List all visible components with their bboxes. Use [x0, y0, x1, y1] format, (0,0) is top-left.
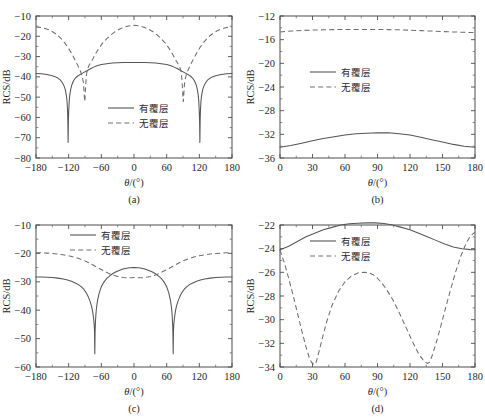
y-axis-title: RCS/dB — [1, 278, 12, 313]
legend-label-dashed: 无覆层 — [139, 118, 169, 129]
x-tick-label: 120 — [402, 162, 418, 173]
y-tick-label: −32 — [259, 129, 275, 140]
x-tick-label: 150 — [435, 371, 451, 382]
legend-label-solid: 有覆层 — [341, 236, 371, 247]
x-tick-label: −60 — [93, 371, 109, 382]
panel-a-plot: −180−120−60060120180−80−70−60−50−40−30−2… — [0, 0, 242, 207]
y-tick-label: −16 — [259, 34, 275, 45]
panel-caption: (a) — [128, 194, 140, 206]
series-curve-dashed — [280, 29, 475, 32]
panel-caption: (d) — [371, 403, 384, 415]
y-tick-label: −32 — [259, 338, 275, 349]
y-tick-label: −50 — [15, 92, 31, 103]
y-tick-label: −70 — [15, 132, 31, 143]
x-tick-label: 120 — [191, 371, 207, 382]
x-tick-label: 90 — [372, 162, 383, 173]
x-axis-title: θ/(°) — [368, 386, 388, 398]
y-axis-title: RCS/dB — [245, 69, 256, 104]
x-tick-label: 150 — [435, 162, 451, 173]
legend-label-solid: 有覆层 — [139, 103, 169, 114]
panel-c-plot: −180−120−60060120180−60−50−40−30−20−10有覆… — [0, 207, 242, 417]
x-axis-title: θ/(°) — [368, 177, 388, 189]
y-axis-title: RCS/dB — [245, 278, 256, 313]
x-tick-label: 60 — [161, 162, 172, 173]
y-tick-label: −24 — [259, 243, 276, 254]
x-tick-label: 180 — [224, 162, 240, 173]
y-tick-label: −50 — [15, 333, 31, 344]
y-tick-label: −34 — [259, 362, 276, 373]
y-tick-label: −60 — [15, 112, 31, 123]
series-curve-solid — [36, 268, 232, 354]
panel-d-plot: 0306090120150180−34−32−30−28−26−24−22有覆层… — [242, 207, 485, 417]
legend-label-dashed: 无覆层 — [341, 82, 371, 93]
y-axis-title: RCS/dB — [1, 69, 12, 104]
figure-container: −180−120−60060120180−80−70−60−50−40−30−2… — [0, 0, 485, 417]
legend-label-solid: 有覆层 — [101, 230, 131, 241]
y-tick-label: −80 — [15, 153, 31, 164]
x-tick-label: 120 — [191, 162, 207, 173]
x-tick-label: 60 — [340, 371, 351, 382]
y-tick-label: −36 — [259, 153, 275, 164]
legend-label-solid: 有覆层 — [341, 67, 371, 78]
x-tick-label: 60 — [161, 371, 172, 382]
x-tick-label: 0 — [277, 371, 282, 382]
y-tick-label: −40 — [15, 71, 31, 82]
panel-caption: (c) — [128, 403, 140, 415]
y-tick-label: −10 — [15, 11, 31, 22]
x-tick-label: 0 — [131, 371, 136, 382]
y-tick-label: −30 — [15, 51, 31, 62]
panel-caption: (b) — [371, 194, 384, 206]
series-curve-dashed — [280, 232, 475, 365]
panel-b-plot: 0306090120150180−36−32−28−24−20−16−12有覆层… — [242, 0, 485, 207]
y-tick-label: −20 — [259, 58, 275, 69]
x-axis-title: θ/(°) — [124, 177, 144, 189]
series-curve-solid — [280, 133, 475, 148]
y-tick-label: −28 — [259, 291, 275, 302]
x-tick-label: 180 — [467, 162, 483, 173]
y-tick-label: −20 — [15, 31, 31, 42]
legend-label-dashed: 无覆层 — [341, 251, 371, 262]
panel-a: −180−120−60060120180−80−70−60−50−40−30−2… — [0, 0, 242, 207]
panel-d: 0306090120150180−34−32−30−28−26−24−22有覆层… — [242, 207, 485, 417]
y-tick-label: −12 — [259, 11, 275, 22]
x-tick-label: 30 — [307, 162, 318, 173]
x-tick-label: −180 — [25, 162, 47, 173]
x-tick-label: −180 — [25, 371, 47, 382]
series-curve-dashed — [36, 253, 232, 278]
y-tick-label: −60 — [15, 362, 31, 373]
x-tick-label: 0 — [277, 162, 282, 173]
x-tick-label: 180 — [224, 371, 240, 382]
y-tick-label: −30 — [259, 314, 275, 325]
x-tick-label: 180 — [467, 371, 483, 382]
x-tick-label: −60 — [93, 162, 109, 173]
y-tick-label: −30 — [15, 276, 31, 287]
y-tick-label: −10 — [15, 220, 31, 231]
y-tick-label: −24 — [259, 82, 276, 93]
y-tick-label: −22 — [259, 220, 275, 231]
x-tick-label: 30 — [307, 371, 318, 382]
panel-b: 0306090120150180−36−32−28−24−20−16−12有覆层… — [242, 0, 485, 207]
y-tick-label: −26 — [259, 267, 275, 278]
x-tick-label: 90 — [372, 371, 383, 382]
x-axis-title: θ/(°) — [124, 386, 144, 398]
y-tick-label: −28 — [259, 105, 275, 116]
series-curve-solid — [36, 62, 232, 142]
x-tick-label: −120 — [58, 162, 80, 173]
x-tick-label: −120 — [58, 371, 80, 382]
y-tick-label: −20 — [15, 248, 31, 259]
legend-label-dashed: 无覆层 — [101, 245, 131, 256]
y-tick-label: −40 — [15, 305, 31, 316]
x-tick-label: 60 — [340, 162, 351, 173]
x-tick-label: 0 — [131, 162, 136, 173]
x-tick-label: 120 — [402, 371, 418, 382]
panel-c: −180−120−60060120180−60−50−40−30−20−10有覆… — [0, 207, 242, 417]
